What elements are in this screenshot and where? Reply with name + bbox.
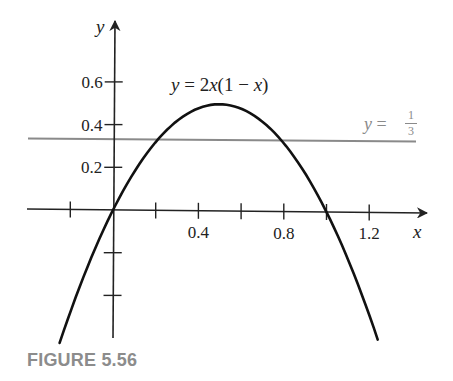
y-tick-label: 0.2 (81, 158, 102, 177)
x-tick-labels: 0.40.81.2 (188, 223, 380, 244)
reference-line-one-third (28, 139, 416, 142)
figure-caption: FIGURE 5.56 (27, 350, 137, 371)
y-tick-label: 0.4 (81, 116, 103, 135)
y-axis-label: y (94, 16, 105, 37)
x-tick-label: 0.4 (188, 223, 210, 242)
figure-plot: 0.40.81.2 0.60.40.2 y x y = 2x(1 − x) y … (0, 0, 453, 381)
reference-line-label: y = 1 3 (362, 108, 417, 138)
svg-text:3: 3 (408, 124, 414, 138)
svg-text:1: 1 (408, 108, 414, 122)
y-axis (113, 21, 115, 338)
x-axis-label: x (412, 221, 422, 242)
curve-label: y = 2x(1 − x) (169, 74, 268, 96)
x-tick-label: 0.8 (273, 224, 294, 243)
y-tick-labels: 0.60.40.2 (81, 73, 103, 177)
svg-text:y =: y = (362, 114, 387, 134)
y-tick-label: 0.6 (81, 73, 102, 92)
x-tick-label: 1.2 (359, 224, 380, 243)
x-axis (27, 209, 427, 213)
